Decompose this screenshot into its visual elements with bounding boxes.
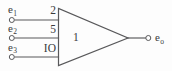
input-label-3: e3 xyxy=(8,42,17,53)
output-terminal[interactable] xyxy=(146,36,151,41)
pin-number-1: 2 xyxy=(36,5,56,17)
input-label-3-subscript: 3 xyxy=(13,46,17,55)
pin-number-3: IO xyxy=(34,43,56,55)
schematic-diagram: e1 e2 e3 2 5 IO 1 eo xyxy=(0,0,172,71)
input-label-1: e1 xyxy=(8,4,17,15)
amplifier-triangle xyxy=(59,9,129,66)
input-label-2: e2 xyxy=(8,23,17,34)
schematic-canvas xyxy=(0,0,172,71)
output-label: eo xyxy=(155,32,164,43)
input-terminal-3[interactable] xyxy=(9,55,14,60)
pin-number-2: 5 xyxy=(36,24,56,36)
input-label-1-subscript: 1 xyxy=(13,9,17,18)
input-label-2-subscript: 2 xyxy=(13,27,17,36)
output-label-subscript: o xyxy=(160,37,164,46)
gate-number-label: 1 xyxy=(73,32,79,44)
